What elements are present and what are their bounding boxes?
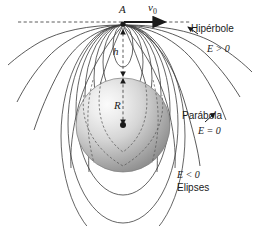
planet-center-dot — [120, 122, 126, 128]
parabola-leader-arrow — [205, 113, 215, 122]
orbital-trajectories-figure: A v0 Hipérbole E > 0 h R Parábola E = 0 … — [0, 0, 255, 226]
figure-canvas — [0, 0, 255, 226]
height-bottom-arrowhead — [120, 72, 126, 78]
